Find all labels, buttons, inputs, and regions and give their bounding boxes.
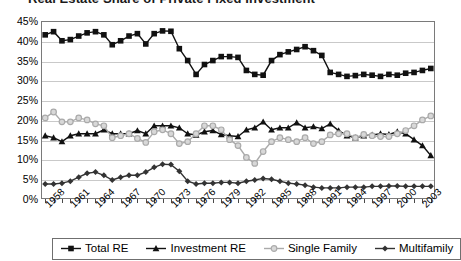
data-point-marker <box>227 137 233 143</box>
data-point-marker <box>42 32 48 38</box>
data-series-layer <box>41 21 435 199</box>
data-point-marker <box>51 181 57 187</box>
data-point-marker <box>42 181 48 187</box>
data-point-marker <box>252 177 258 183</box>
data-point-marker <box>126 131 132 137</box>
data-point-marker <box>336 131 342 137</box>
data-point-marker <box>185 58 191 64</box>
y-axis-tick-label: 45% <box>17 15 38 27</box>
data-point-marker <box>177 141 183 147</box>
data-point-marker <box>294 181 300 187</box>
filled-diamond-icon <box>374 243 396 254</box>
data-point-marker <box>293 119 300 125</box>
data-point-marker <box>177 46 183 52</box>
data-point-marker <box>93 121 99 127</box>
data-point-marker <box>160 161 166 167</box>
data-point-marker <box>361 132 367 138</box>
data-point-marker <box>218 179 224 185</box>
data-point-marker <box>210 123 216 129</box>
y-axis-tick-label: 30% <box>17 74 38 86</box>
data-point-marker <box>271 246 277 252</box>
legend-label: Single Family <box>288 243 357 255</box>
data-point-marker <box>311 141 317 147</box>
legend-item-single-family[interactable]: Single Family <box>263 243 357 255</box>
data-point-marker <box>277 135 283 141</box>
data-point-marker <box>277 52 283 58</box>
series-multifamily <box>42 161 434 191</box>
data-point-marker <box>118 133 124 139</box>
legend-item-total-re[interactable]: Total RE <box>60 243 128 255</box>
data-point-marker <box>59 38 65 44</box>
data-point-marker <box>403 128 409 134</box>
data-point-marker <box>394 131 400 137</box>
y-axis-tick-label: 35% <box>17 55 38 67</box>
data-point-marker <box>336 72 342 78</box>
series-line <box>45 31 431 76</box>
data-point-marker <box>126 33 132 39</box>
y-axis-tick-label: 0% <box>23 193 38 205</box>
data-point-marker <box>202 123 208 129</box>
data-point-marker <box>101 123 107 129</box>
data-point-marker <box>218 54 224 60</box>
data-point-marker <box>67 178 73 184</box>
y-axis: 45%40%35%30%25%20%15%10%5%0% <box>0 21 38 199</box>
data-point-marker <box>361 72 367 78</box>
data-point-marker <box>252 72 258 78</box>
data-point-marker <box>51 29 57 35</box>
data-point-marker <box>193 72 199 78</box>
data-point-marker <box>428 66 434 72</box>
data-point-marker <box>76 33 82 39</box>
legend-label: Multifamily <box>399 243 453 255</box>
data-point-marker <box>235 55 241 61</box>
data-point-marker <box>109 177 115 183</box>
data-point-marker <box>84 117 90 123</box>
data-point-marker <box>51 109 57 115</box>
data-point-marker <box>76 115 82 121</box>
data-point-marker <box>143 41 149 47</box>
data-point-marker <box>193 181 199 187</box>
y-axis-tick-label: 20% <box>17 114 38 126</box>
data-point-marker <box>126 172 132 178</box>
data-point-marker <box>260 118 267 124</box>
data-point-marker <box>42 115 48 121</box>
data-point-marker <box>101 32 107 38</box>
filled-square-icon <box>60 243 82 254</box>
data-point-marker <box>185 139 191 145</box>
data-point-marker <box>369 183 375 189</box>
data-point-marker <box>134 172 140 178</box>
data-point-marker <box>285 137 291 143</box>
data-point-marker <box>428 113 434 119</box>
data-point-marker <box>151 129 157 135</box>
legend-label: Investment RE <box>170 243 245 255</box>
data-point-marker <box>134 127 141 133</box>
data-point-marker <box>160 28 166 34</box>
data-point-marker <box>302 135 308 141</box>
y-axis-tick-label: 10% <box>17 153 38 165</box>
data-point-marker <box>160 127 166 133</box>
data-point-marker <box>269 58 275 64</box>
data-point-marker <box>260 149 266 155</box>
data-point-marker <box>151 164 157 170</box>
data-point-marker <box>59 119 65 125</box>
data-point-marker <box>210 58 216 64</box>
data-point-marker <box>84 170 90 176</box>
data-point-marker <box>378 134 384 140</box>
data-point-marker <box>420 68 426 74</box>
data-point-marker <box>92 169 98 175</box>
data-point-marker <box>135 136 141 142</box>
data-point-marker <box>168 131 174 137</box>
data-point-marker <box>353 73 359 79</box>
legend-label: Total RE <box>85 243 128 255</box>
data-point-marker <box>302 44 308 50</box>
data-point-marker <box>369 72 375 78</box>
data-point-marker <box>260 175 266 181</box>
data-point-marker <box>319 53 325 59</box>
data-point-marker <box>235 143 241 149</box>
data-point-marker <box>151 31 157 37</box>
legend-item-multifamily[interactable]: Multifamily <box>374 243 453 255</box>
data-point-marker <box>42 132 49 138</box>
legend-item-investment-re[interactable]: Investment RE <box>145 243 245 255</box>
data-point-marker <box>68 119 74 125</box>
data-point-marker <box>327 70 333 76</box>
chart-title: Real Estate Share of Private Fixed Inves… <box>28 0 315 6</box>
